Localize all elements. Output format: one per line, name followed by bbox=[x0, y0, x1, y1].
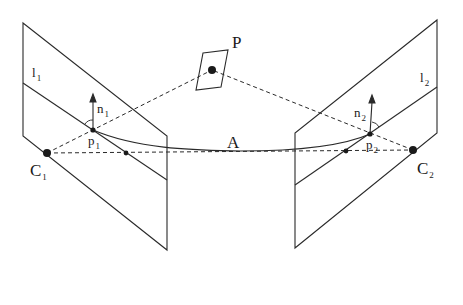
ray-c1-p bbox=[47, 70, 212, 153]
label-P: P bbox=[232, 34, 241, 51]
normal-n2 bbox=[370, 102, 372, 134]
point-p2 bbox=[367, 131, 372, 136]
point-C1 bbox=[43, 149, 51, 157]
label-n1-sub: 1 bbox=[105, 109, 110, 119]
label-p2-main: p bbox=[366, 137, 373, 152]
label-n2: n2 bbox=[354, 106, 366, 119]
label-P-text: P bbox=[232, 33, 241, 52]
label-C1: C1 bbox=[30, 162, 47, 179]
arrowhead-n2 bbox=[369, 95, 375, 103]
point-P bbox=[208, 66, 216, 74]
label-p1-sub: 1 bbox=[96, 141, 101, 151]
label-p1: p1 bbox=[88, 134, 100, 147]
label-A-text: A bbox=[227, 133, 239, 152]
label-n1: n1 bbox=[97, 102, 109, 115]
label-n1-main: n bbox=[97, 101, 104, 116]
label-l2: l2 bbox=[420, 71, 429, 84]
label-l2-main: l bbox=[420, 70, 424, 85]
label-C2: C2 bbox=[417, 160, 434, 177]
label-l1: l1 bbox=[32, 66, 41, 79]
label-p2-sub: 2 bbox=[374, 145, 379, 155]
ray-c2-p bbox=[212, 70, 413, 150]
epipole-e1 bbox=[124, 151, 129, 156]
epipole-e2 bbox=[344, 149, 349, 154]
right-angle-n2 bbox=[372, 122, 379, 127]
label-C2-main: C bbox=[417, 159, 428, 178]
point-p1 bbox=[90, 127, 95, 132]
label-n2-sub: 2 bbox=[362, 113, 367, 123]
label-l1-sub: 1 bbox=[37, 73, 42, 83]
label-C1-sub: 1 bbox=[42, 172, 47, 182]
arrowhead-n1 bbox=[90, 94, 96, 102]
label-C2-sub: 2 bbox=[429, 170, 434, 180]
label-l2-sub: 2 bbox=[425, 78, 430, 88]
right-angle-n1 bbox=[85, 120, 93, 124]
label-C1-main: C bbox=[30, 161, 41, 180]
right-image-plane bbox=[295, 20, 437, 248]
point-C2 bbox=[409, 146, 417, 154]
label-l1-main: l bbox=[32, 65, 36, 80]
label-A: A bbox=[227, 134, 239, 151]
label-p1-main: p bbox=[88, 133, 95, 148]
label-n2-main: n bbox=[354, 105, 361, 120]
label-p2: p2 bbox=[366, 138, 378, 151]
